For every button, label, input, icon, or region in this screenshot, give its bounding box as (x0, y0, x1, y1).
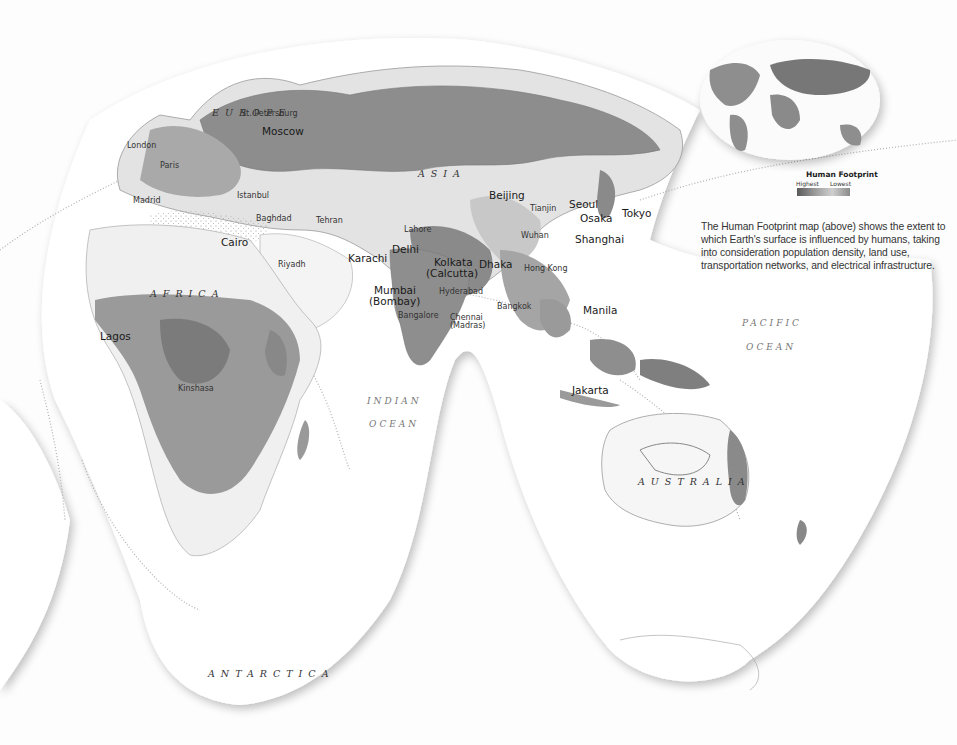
city-london: London (127, 142, 156, 150)
city-karachi: Karachi (348, 253, 387, 264)
city-delhi: Delhi (392, 244, 419, 255)
inset-map (700, 40, 880, 160)
label-pacific-ocean-1: PACIFIC (742, 318, 802, 328)
label-asia: ASIA (418, 168, 466, 179)
city-kolkata-alt: (Calcutta) (426, 268, 478, 279)
city-tokyo: Tokyo (622, 208, 651, 219)
city-jakarta: Jakarta (572, 385, 609, 396)
label-australia: AUSTRALIA (638, 476, 751, 487)
city-chennai-alt: (Madras) (450, 322, 485, 330)
city-paris: Paris (160, 162, 179, 170)
city-cairo: Cairo (221, 237, 248, 248)
legend-title: Human Footprint (806, 170, 878, 179)
city-riyadh: Riyadh (278, 261, 306, 269)
city-hong-kong: Hong Kong (524, 265, 568, 273)
city-kolkata: Kolkata (434, 257, 473, 268)
city-moscow: Moscow (262, 126, 304, 137)
label-pacific-ocean-2: OCEAN (746, 342, 796, 352)
city-istanbul: Istanbul (237, 192, 269, 200)
city-tehran: Tehran (316, 217, 343, 225)
label-indian-ocean-2: OCEAN (369, 419, 419, 429)
city-mumbai-alt: (Bombay) (369, 296, 420, 307)
legend-low-label: Lowest (830, 180, 851, 187)
city-beijing: Beijing (489, 190, 525, 201)
city-bangalore: Bangalore (398, 312, 439, 320)
city-st-petersburg: St. Petersburg (241, 110, 298, 118)
legend-high-label: Highest (796, 180, 819, 187)
city-seoul: Seoul (569, 199, 598, 210)
city-hyderabad: Hyderabad (439, 288, 483, 296)
city-wuhan: Wuhan (521, 232, 549, 240)
city-kinshasa: Kinshasa (178, 385, 214, 393)
city-bangkok: Bangkok (497, 303, 531, 311)
world-map (0, 0, 957, 745)
city-lagos: Lagos (100, 331, 131, 342)
label-indian-ocean-1: INDIAN (367, 396, 422, 406)
city-mumbai: Mumbai (374, 285, 416, 296)
label-antarctica: ANTARCTICA (208, 668, 335, 679)
city-madrid: Madrid (133, 197, 160, 205)
city-manila: Manila (583, 305, 617, 316)
city-osaka: Osaka (580, 213, 613, 224)
city-lahore: Lahore (404, 226, 431, 234)
caption-text: The Human Footprint map (above) shows th… (701, 220, 951, 272)
city-dhaka: Dhaka (479, 259, 513, 270)
city-shanghai: Shanghai (575, 234, 624, 245)
legend-gradient-bar (797, 188, 850, 196)
label-africa: AFRICA (150, 288, 225, 299)
city-tianjin: Tianjin (530, 205, 556, 213)
city-baghdad: Baghdad (256, 215, 292, 223)
